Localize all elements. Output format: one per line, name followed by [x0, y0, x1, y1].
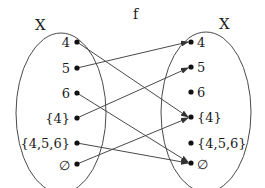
codomain-set-label: X — [219, 15, 230, 33]
arrow-4-to-set4 — [77, 42, 188, 117]
codomain-dot-6 — [188, 89, 193, 94]
domain-dot-set-456 — [74, 140, 79, 145]
codomain-element-set-456: {4,5,6} — [197, 136, 247, 151]
domain-dot-set-4 — [74, 115, 79, 120]
codomain-element-4: 4 — [197, 35, 205, 50]
arrow-emptyset-to-set4 — [77, 118, 188, 164]
domain-set-label: X — [35, 16, 46, 34]
codomain-element-emptyset: ∅ — [197, 157, 208, 172]
arrow-6-to-emptyset — [77, 93, 188, 162]
codomain-dot-set-4 — [188, 114, 193, 119]
domain-element-set-456: {4,5,6} — [20, 136, 70, 151]
domain-element-set-4: {4} — [45, 111, 70, 126]
domain-element-emptyset: ∅ — [59, 158, 70, 173]
function-mapping-diagram: X X f 4 5 6 {4} {4,5,6} ∅ 4 5 6 {4} {4,5… — [0, 0, 265, 188]
domain-element-5: 5 — [62, 61, 70, 76]
domain-dot-5 — [74, 65, 79, 70]
domain-dot-emptyset — [74, 161, 79, 166]
function-label: f — [133, 6, 140, 22]
arrow-set4-to-5 — [77, 68, 188, 118]
arrow-5-to-4 — [77, 42, 188, 68]
codomain-dot-emptyset — [188, 160, 193, 165]
codomain-element-6: 6 — [197, 85, 205, 100]
codomain-dot-4 — [188, 39, 193, 44]
codomain-element-set-4: {4} — [197, 110, 222, 125]
arrow-set456-to-emptyset — [77, 143, 188, 163]
codomain-dot-set-456 — [188, 140, 193, 145]
domain-dot-6 — [74, 90, 79, 95]
domain-dot-4 — [74, 39, 79, 44]
codomain-element-5: 5 — [197, 60, 205, 75]
codomain-dot-5 — [188, 64, 193, 69]
domain-element-4: 4 — [62, 35, 70, 50]
domain-element-6: 6 — [62, 86, 70, 101]
